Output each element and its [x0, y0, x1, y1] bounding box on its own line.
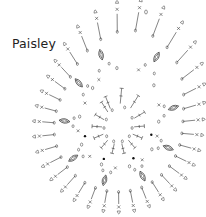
- chain-stitch-icon: [108, 62, 110, 65]
- picot-icon: [180, 21, 183, 24]
- chain-stitch-icon: [80, 143, 82, 146]
- chain-stitch-icon: [163, 114, 165, 117]
- chain-stitch-icon: [113, 140, 115, 143]
- chain-stitch-icon: [91, 86, 93, 89]
- single-crochet-icon: [146, 200, 149, 203]
- picot-icon: [35, 105, 38, 108]
- chain-stitch-icon: [78, 115, 80, 118]
- tip-picot-icon: [145, 10, 148, 14]
- single-crochet-icon: [97, 78, 100, 81]
- stitch-post: [121, 148, 124, 149]
- single-crochet-icon: [46, 162, 49, 165]
- stitch-post: [137, 95, 140, 97]
- single-crochet-icon: [95, 17, 98, 20]
- chain-stitch-icon: [163, 105, 165, 108]
- single-crochet-icon: [64, 185, 67, 188]
- single-crochet-icon: [180, 174, 183, 177]
- stitch-post: [167, 32, 176, 47]
- single-crochet-icon: [76, 194, 79, 197]
- single-crochet-icon: [41, 149, 44, 152]
- single-crochet-icon: [79, 31, 82, 34]
- chain-stitch-icon: [157, 147, 159, 150]
- puff-cluster-icon: [69, 155, 78, 161]
- single-crochet-icon: [117, 205, 120, 208]
- chain-stitch-icon: [158, 120, 160, 123]
- picot-icon: [203, 101, 206, 104]
- stitch-post: [182, 133, 194, 134]
- puff-cluster-icon: [99, 49, 104, 60]
- picot-icon: [117, 211, 120, 214]
- stitch-post: [82, 36, 88, 51]
- single-crochet-icon: [141, 158, 144, 161]
- picot-icon: [50, 177, 53, 180]
- single-crochet-icon: [103, 204, 106, 207]
- picot-icon: [198, 148, 201, 151]
- picot-icon: [102, 209, 105, 212]
- picot-icon: [77, 25, 80, 28]
- puff-cluster-icon: [163, 145, 173, 150]
- slip-stitch-icon: [150, 134, 152, 136]
- picot-icon: [47, 75, 50, 78]
- single-crochet-icon: [89, 200, 92, 203]
- single-crochet-icon: [77, 129, 80, 132]
- single-crochet-icon: [188, 161, 191, 164]
- slip-stitch-icon: [103, 158, 105, 160]
- chain-stitch-icon: [102, 169, 104, 172]
- slip-stitch-icon: [84, 135, 86, 137]
- picot-icon: [115, 0, 118, 3]
- single-crochet-icon: [195, 66, 198, 69]
- chain-stitch-icon: [160, 139, 162, 142]
- stitch-post: [67, 176, 75, 185]
- stitch-post: [152, 182, 158, 192]
- chain-stitch-icon: [131, 116, 133, 119]
- single-crochet-icon: [88, 155, 91, 158]
- picot-icon: [162, 6, 165, 9]
- stitch-post: [42, 135, 54, 136]
- single-crochet-icon: [132, 204, 135, 207]
- stitch-post: [182, 70, 194, 79]
- picot-icon: [161, 197, 164, 200]
- chain-stitch-icon: [98, 69, 100, 72]
- single-crochet-icon: [116, 8, 119, 11]
- chain-stitch-icon: [131, 127, 133, 130]
- stitch-post: [79, 183, 85, 193]
- single-crochet-icon: [197, 118, 200, 121]
- single-crochet-icon: [159, 193, 162, 196]
- stitch-post: [105, 191, 107, 203]
- single-crochet-icon: [137, 68, 140, 71]
- stitch-post: [91, 188, 95, 199]
- stitch-post: [135, 12, 138, 30]
- single-crochet-icon: [138, 6, 141, 9]
- chain-stitch-icon: [87, 85, 89, 88]
- single-crochet-icon: [156, 135, 159, 138]
- single-crochet-icon: [158, 104, 161, 107]
- picot-icon: [41, 164, 44, 167]
- picot-icon: [200, 62, 203, 65]
- picot-icon: [73, 198, 76, 201]
- stitch-post: [177, 50, 188, 62]
- chain-stitch-icon: [116, 66, 118, 69]
- picot-icon: [61, 189, 64, 192]
- stitch-post: [180, 145, 192, 148]
- single-crochet-icon: [84, 102, 87, 105]
- slip-stitch-icon: [132, 157, 134, 159]
- single-crochet-icon: [177, 27, 180, 30]
- chain-stitch-icon: [144, 63, 146, 66]
- stitch-post: [94, 113, 96, 116]
- stitch-post: [70, 52, 78, 64]
- stitch-post: [143, 110, 145, 113]
- stitch-post: [61, 67, 70, 77]
- stitch-post: [153, 19, 160, 36]
- single-crochet-icon: [38, 135, 41, 138]
- stitch-post: [45, 108, 57, 111]
- single-crochet-icon: [38, 120, 41, 123]
- stitch-post: [100, 101, 103, 103]
- stitch-post: [112, 148, 115, 149]
- chain-stitch-icon: [111, 109, 113, 112]
- single-crochet-icon: [159, 13, 162, 16]
- stitch-layer: [32, 0, 206, 214]
- picot-icon: [32, 135, 35, 138]
- chain-stitch-icon: [153, 84, 155, 87]
- chain-stitch-icon: [134, 168, 136, 171]
- single-crochet-icon: [58, 63, 61, 66]
